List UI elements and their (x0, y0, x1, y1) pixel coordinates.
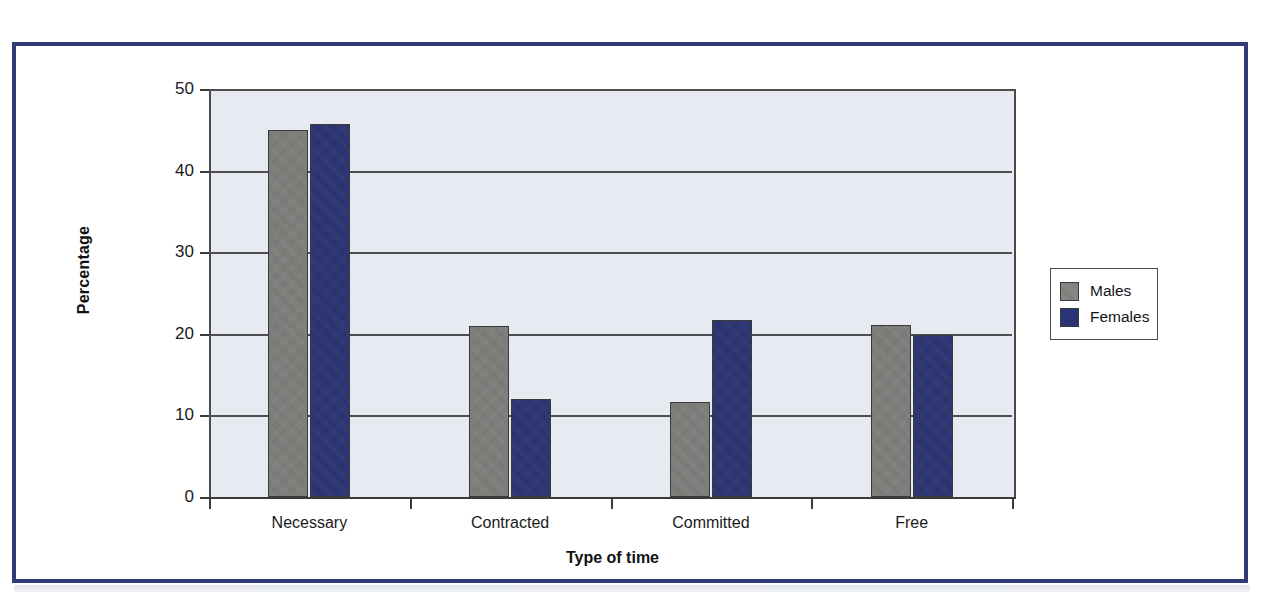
x-tick-mark (209, 497, 211, 509)
x-axis-title: Type of time (209, 549, 1016, 567)
x-tick-label-necessary: Necessary (209, 514, 409, 532)
x-tick-label-contracted: Contracted (410, 514, 610, 532)
x-tick-label-committed: Committed (611, 514, 811, 532)
x-tick-mark (611, 497, 613, 509)
page-bottom-shadow (14, 585, 1250, 592)
legend-item-females[interactable]: Females (1060, 304, 1147, 330)
x-tick-mark (811, 497, 813, 509)
x-tick-mark (410, 497, 412, 509)
legend-swatch-females-icon (1060, 308, 1079, 327)
figure-border-frame: 01020304050 Percentage NecessaryContract… (12, 42, 1248, 583)
legend-swatch-males-icon (1060, 282, 1079, 301)
figure-root: 01020304050 Percentage NecessaryContract… (0, 0, 1268, 595)
x-tick-label-free: Free (812, 514, 1012, 532)
legend-label-males: Males (1090, 282, 1131, 300)
legend-label-females: Females (1090, 308, 1149, 326)
chart-canvas: 01020304050 Percentage NecessaryContract… (16, 46, 1244, 579)
chart-legend: Males Females (1050, 268, 1158, 340)
legend-item-males[interactable]: Males (1060, 278, 1147, 304)
x-tick-mark (1012, 497, 1014, 509)
